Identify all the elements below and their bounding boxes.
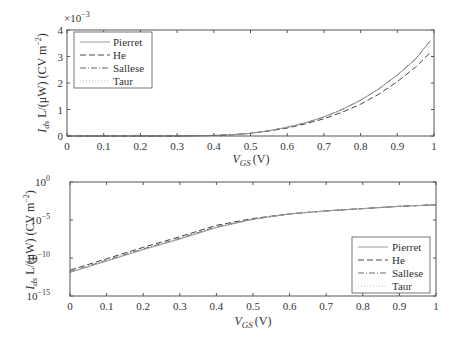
x-tick-label: 0.4	[207, 140, 221, 152]
legend-label-pierret: Pierret	[113, 36, 142, 48]
x-tick-label: 0	[64, 140, 70, 152]
figure: 00.10.20.30.40.50.60.70.80.91 01234 ×10−…	[0, 0, 457, 342]
top-y-multiplier: ×10−3	[64, 10, 90, 24]
x-tick-label: 0.3	[173, 300, 187, 312]
x-tick-label: 0.9	[393, 300, 407, 312]
x-tick-label: 0.5	[244, 140, 258, 152]
x-tick-label: 0.2	[136, 300, 150, 312]
top-plot: 00.10.20.30.40.50.60.70.80.91 01234 ×10−…	[34, 10, 437, 168]
x-tick-label: 0.2	[134, 140, 148, 152]
x-tick-label: 0.7	[317, 140, 331, 152]
x-tick-label: 0.9	[390, 140, 404, 152]
x-tick-label: 0.8	[356, 300, 370, 312]
x-tick-label: 1	[431, 140, 437, 152]
bottom-x-axis-label: VGS(V)	[234, 314, 271, 330]
legend-label-taur: Taur	[392, 280, 412, 292]
y-tick-label: 3	[58, 51, 64, 63]
x-tick-label: 0.8	[354, 140, 368, 152]
top-legend: Pierret He Sallese Taur	[74, 32, 152, 88]
top-x-axis-label: VGS(V)	[232, 152, 269, 168]
bottom-y-axis-label: Ids L/(μW) (CV m−2)	[22, 190, 39, 291]
x-tick-label: 0.6	[280, 140, 294, 152]
x-tick-label: 1	[433, 300, 439, 312]
x-tick-label: 0.3	[170, 140, 184, 152]
legend-label-sallese: Sallese	[392, 267, 423, 279]
y-tick-label: 4	[58, 24, 64, 36]
legend-label-he: He	[113, 49, 126, 61]
legend-label-sallese: Sallese	[113, 62, 144, 74]
x-tick-label: 0.6	[283, 300, 297, 312]
y-tick-label: 100	[35, 174, 50, 188]
x-tick-label: 0.7	[319, 300, 333, 312]
legend-label-taur: Taur	[113, 75, 133, 87]
x-tick-label: 0.1	[97, 140, 111, 152]
top-y-axis-label: Ids L/(μW) (CV m−2)	[34, 33, 51, 134]
legend-label-pierret: Pierret	[392, 241, 421, 253]
x-tick-label: 0.5	[246, 300, 260, 312]
bottom-legend: Pierret He Sallese Taur	[352, 237, 430, 293]
legend-label-he: He	[392, 254, 405, 266]
y-tick-label: 0	[58, 130, 64, 142]
bottom-plot: 00.10.20.30.40.50.60.70.80.91 10−1510−10…	[22, 174, 439, 330]
y-tick-label: 2	[58, 77, 64, 89]
x-tick-label: 0.4	[210, 300, 224, 312]
x-tick-label: 0	[67, 300, 73, 312]
x-tick-label: 0.1	[100, 300, 114, 312]
y-tick-label: 1	[58, 104, 64, 116]
